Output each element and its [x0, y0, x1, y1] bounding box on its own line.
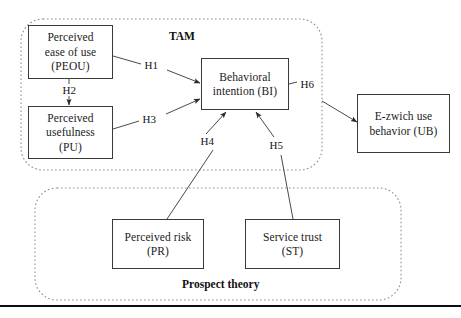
group-label-prospect: Prospect theory	[179, 278, 262, 290]
node-bi-line2: intention (BI)	[210, 84, 280, 98]
node-pu-line2: usefulness	[43, 125, 98, 139]
node-ub-line2: behavior (UB)	[366, 124, 440, 138]
page-bottom-rule	[0, 305, 461, 307]
node-st-line2: (ST)	[260, 244, 325, 258]
hypothesis-label-h3: H3	[141, 113, 157, 125]
node-peou-line1: Perceived	[42, 30, 100, 44]
hypothesis-label-h4: H4	[199, 135, 215, 147]
node-ub-line1: E-zwich use	[366, 109, 440, 123]
connector-h5	[256, 112, 293, 219]
node-bi-line1: Behavioral	[210, 70, 280, 84]
node-pr-text: Perceived risk (PR)	[119, 230, 198, 259]
node-peou[interactable]: Perceived ease of use (PEOU)	[28, 25, 113, 79]
node-bi[interactable]: Behavioral intention (BI)	[201, 58, 289, 110]
node-pr[interactable]: Perceived risk (PR)	[112, 219, 204, 269]
node-pr-line1: Perceived risk	[122, 230, 195, 244]
hypothesis-label-h5: H5	[268, 139, 284, 151]
node-ub[interactable]: E-zwich use behavior (UB)	[357, 94, 450, 153]
node-pu[interactable]: Perceived usefulness (PU)	[28, 106, 113, 159]
node-pu-line3: (PU)	[43, 140, 98, 154]
group-label-tam: TAM	[166, 30, 198, 42]
hypothesis-label-h1: H1	[143, 59, 159, 71]
node-peou-text: Perceived ease of use (PEOU)	[39, 30, 103, 73]
node-pr-line2: (PR)	[122, 244, 195, 258]
node-peou-line3: (PEOU)	[42, 59, 100, 73]
node-st-line1: Service trust	[260, 230, 325, 244]
diagram-canvas: Perceived ease of use (PEOU) Perceived u…	[0, 0, 461, 318]
hypothesis-label-h2: H2	[61, 84, 77, 96]
node-ub-text: E-zwich use behavior (UB)	[363, 109, 443, 138]
node-st-text: Service trust (ST)	[257, 230, 328, 259]
connector-h4	[167, 112, 226, 219]
hypothesis-label-h6: H6	[299, 78, 315, 90]
node-st[interactable]: Service trust (ST)	[245, 219, 340, 269]
node-bi-text: Behavioral intention (BI)	[207, 70, 283, 99]
node-pu-text: Perceived usefulness (PU)	[40, 111, 101, 154]
node-peou-line2: ease of use	[42, 45, 100, 59]
node-pu-line1: Perceived	[43, 111, 98, 125]
